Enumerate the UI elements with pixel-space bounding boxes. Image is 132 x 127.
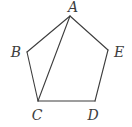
vertex-label-C: C: [32, 107, 43, 123]
edge-EA: [70, 16, 108, 50]
figure-canvas: ABCDE: [0, 0, 132, 127]
vertex-label-A: A: [66, 0, 78, 15]
edge-BC: [27, 52, 38, 101]
vertex-label-B: B: [10, 44, 21, 60]
vertex-label-D: D: [86, 107, 98, 123]
edge-DE: [95, 50, 108, 101]
pentagon-diagram: ABCDE: [0, 0, 132, 127]
vertex-label-E: E: [113, 44, 124, 60]
